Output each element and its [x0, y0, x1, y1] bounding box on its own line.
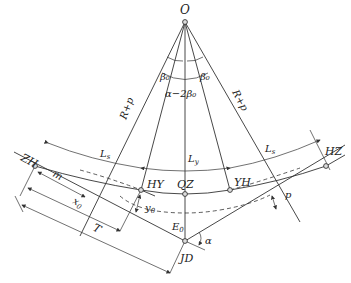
- label-YH: YH: [234, 176, 251, 189]
- length-arc: [48, 130, 330, 171]
- label-E0: E0: [171, 221, 184, 234]
- point-QZ: [183, 192, 188, 197]
- label-radius-right: R+p: [230, 87, 251, 113]
- point-O: [183, 20, 188, 25]
- label-beta-right: β₀: [199, 71, 210, 82]
- point-HY: [139, 188, 144, 193]
- label-beta-left: β₀: [159, 71, 170, 82]
- label-T: T: [91, 221, 105, 237]
- point-HZ: [324, 164, 329, 169]
- tangent-lines: [14, 145, 345, 250]
- label-p: p: [285, 189, 292, 200]
- label-ls-right: Ls: [264, 143, 276, 156]
- point-JD: [183, 239, 188, 244]
- label-HY: HY: [146, 178, 166, 191]
- label-QZ: QZ: [177, 178, 194, 191]
- label-center-angle: α−2β₀: [165, 88, 196, 99]
- transition-curve-diagram: O ZH HY QZ YH HZ JD β₀ β₀ α−2β₀ R+p R+p …: [0, 0, 351, 283]
- label-O: O: [180, 3, 190, 17]
- label-alpha: α: [205, 235, 212, 246]
- label-y0: y0: [144, 202, 156, 215]
- label-ly: Ly: [187, 153, 200, 166]
- label-ls-left: Ls: [99, 148, 111, 161]
- point-YH: [228, 188, 233, 193]
- label-JD: JD: [178, 252, 193, 265]
- label-radius-left: R+p: [117, 95, 136, 121]
- label-HZ: HZ: [324, 145, 343, 158]
- radial-lines: [80, 22, 300, 241]
